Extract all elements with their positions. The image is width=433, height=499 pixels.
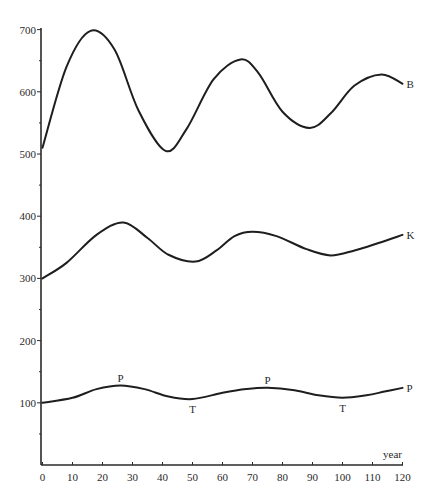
x-tick-label: 60 [217,471,229,483]
series-K-line [43,222,403,278]
y-axis-ticks: 100200300400500600700 [20,24,42,434]
x-tick-label: 120 [394,471,411,483]
series-P-label: P [407,382,413,394]
trough-annotation: T [189,403,196,415]
x-tick-label: 80 [277,471,289,483]
x-tick-label: 0 [40,471,46,483]
x-tick-label: 110 [364,471,381,483]
y-tick-label: 600 [20,86,37,98]
x-tick-label: 30 [127,471,139,483]
line-chart: 100200300400500600700 010203040506070809… [0,0,433,499]
y-tick-label: 700 [20,24,37,36]
series-K-label: K [407,229,415,241]
trough-annotation: T [339,402,346,414]
y-tick-label: 100 [20,397,37,409]
series-B-line [43,30,403,151]
x-tick-label: 50 [187,471,199,483]
x-tick-label: 10 [67,471,79,483]
x-tick-label: 100 [334,471,351,483]
x-tick-label: 40 [157,471,169,483]
x-tick-label: 70 [247,471,259,483]
y-tick-label: 500 [20,148,37,160]
x-tick-label: 20 [97,471,109,483]
curves: BKP [43,30,415,403]
series-P-line [43,385,403,402]
series-B-label: B [407,78,414,90]
peak-annotation: P [117,372,123,384]
y-tick-label: 200 [20,335,37,347]
x-tick-label: 90 [307,471,319,483]
peak-annotation: P [264,374,270,386]
y-tick-label: 300 [20,272,37,284]
y-tick-label: 400 [20,210,37,222]
x-axis-label: year [383,448,402,460]
